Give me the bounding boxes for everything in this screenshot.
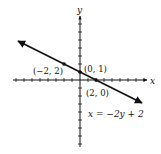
label-point-2-0: (2, 0)	[86, 88, 109, 98]
y-axis-label: y	[76, 5, 83, 15]
label-point-0-1: (0, 1)	[84, 64, 107, 74]
graph: y x (−2, 2) (0, 1) (2, 0) x = −2y + 2	[0, 0, 161, 154]
equation-label: x = −2y + 2	[88, 109, 144, 119]
label-point-neg2-2: (−2, 2)	[33, 66, 63, 76]
x-axis-label: x	[150, 76, 155, 86]
point-2-0	[94, 78, 98, 82]
point-0-1	[78, 70, 82, 74]
